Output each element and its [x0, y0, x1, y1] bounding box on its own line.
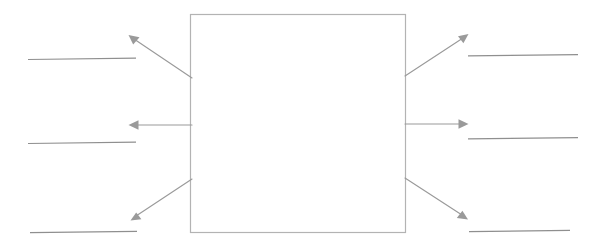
arrow-right-top[interactable] [405, 34, 469, 76]
answer-line-right-bottom[interactable] [469, 230, 570, 231]
answer-line-left-bottom[interactable] [30, 231, 137, 232]
answer-slot-left-bottom[interactable] [30, 231, 137, 232]
arrow-right-bottom-shaft [405, 178, 462, 215]
arrow-right-middle[interactable] [405, 119, 469, 128]
center-box-group[interactable] [191, 15, 406, 233]
arrow-left-bottom-shaft [136, 179, 192, 216]
answer-slot-right-bottom[interactable] [469, 230, 570, 231]
answer-slot-right-top[interactable] [468, 55, 578, 56]
answer-line-left-middle[interactable] [28, 142, 136, 143]
arrow-right-middle-head [459, 119, 469, 128]
center-box[interactable] [191, 15, 406, 233]
arrow-left-middle-head [129, 120, 139, 129]
answer-slot-left-top[interactable] [28, 58, 136, 59]
answer-line-right-top[interactable] [468, 55, 578, 56]
answer-line-left-top[interactable] [28, 58, 136, 59]
concept-diagram [0, 0, 594, 244]
arrow-right-bottom[interactable] [405, 178, 468, 220]
arrow-left-middle[interactable] [129, 120, 193, 129]
answer-slot-right-middle[interactable] [468, 138, 578, 139]
arrow-left-top[interactable] [129, 35, 193, 78]
arrow-left-top-head [129, 35, 140, 45]
arrow-left-top-shaft [134, 39, 192, 78]
arrow-right-top-head [458, 34, 469, 43]
answer-slot-left-middle[interactable] [28, 142, 136, 143]
arrow-right-top-shaft [405, 38, 463, 76]
arrow-left-bottom[interactable] [131, 179, 193, 221]
worksheet-canvas [0, 0, 594, 244]
answer-line-right-middle[interactable] [468, 138, 578, 139]
